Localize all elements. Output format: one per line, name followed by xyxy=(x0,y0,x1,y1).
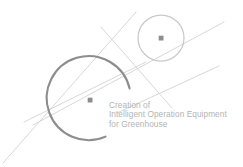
construction-lines xyxy=(3,12,224,163)
small-circle-center-dot xyxy=(159,36,164,41)
tagline: Creation of Intelligent Operation Equipm… xyxy=(109,101,237,129)
large-circle-center-dot xyxy=(88,98,93,103)
construction-line-tangent-upper xyxy=(3,12,136,163)
logo-canvas: Creation of Intelligent Operation Equipm… xyxy=(0,0,243,167)
logo-artwork xyxy=(0,0,243,167)
tagline-line-3: for Greenhouse xyxy=(109,120,237,129)
